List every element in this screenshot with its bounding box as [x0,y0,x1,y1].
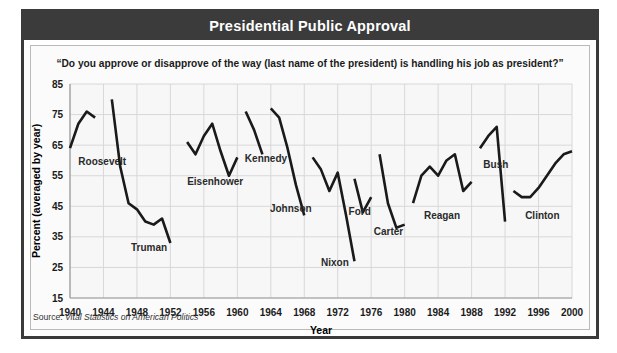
source-note: Source: Vital Statistics on American Pol… [33,312,198,322]
series-label-truman: Truman [131,242,167,253]
screenshot-root: Presidential Public Approval “Do you app… [0,0,617,353]
x-axis-tick-label: 1976 [360,307,383,318]
page-title: Presidential Public Approval [209,18,411,34]
series-label-eisenhower: Eisenhower [187,176,243,187]
x-axis-tick-label: 1984 [427,307,450,318]
x-axis-tick-label: 1972 [327,307,350,318]
y-axis-tick-label: 15 [52,293,64,304]
series-label-johnson: Johnson [270,203,312,214]
source-title: Vital Statistics on American Politics [65,312,198,322]
y-axis-title: Percent (averaged by year) [30,124,42,258]
series-label-kennedy: Kennedy [245,153,288,164]
chart-title-bar: Presidential Public Approval [24,12,596,40]
x-axis-tick-label: 1996 [527,307,550,318]
y-axis-tick-label: 35 [52,231,64,242]
y-axis-tick-label: 45 [52,201,64,212]
x-axis-tick-label: 1988 [460,307,483,318]
x-axis-tick-label: 1980 [394,307,417,318]
x-axis-tick-label: 1964 [260,307,283,318]
y-axis-tick-label: 25 [52,262,64,273]
x-axis-tick-label: 1992 [494,307,517,318]
y-axis-tick-label: 75 [52,109,64,120]
series-label-carter: Carter [374,226,404,237]
source-label: Source: [33,312,65,322]
chart-canvas: 1525354555657585194019441948195219561960… [24,40,602,340]
chart-frame: Presidential Public Approval “Do you app… [21,9,599,339]
x-axis-tick-label: 2000 [561,307,584,318]
series-label-ford: Ford [349,206,371,217]
approval-line-chart: 1525354555657585194019441948195219561960… [24,40,602,340]
x-axis-title: Year [310,324,332,336]
y-axis-tick-label: 55 [52,170,64,181]
series-label-nixon: Nixon [321,257,349,268]
series-label-reagan: Reagan [424,210,460,221]
series-label-clinton: Clinton [525,210,559,221]
x-axis-tick-label: 1968 [293,307,316,318]
series-label-bush: Bush [483,159,508,170]
y-axis-tick-label: 85 [52,79,64,90]
x-axis-tick-label: 1960 [226,307,249,318]
y-axis-tick-label: 65 [52,140,64,151]
